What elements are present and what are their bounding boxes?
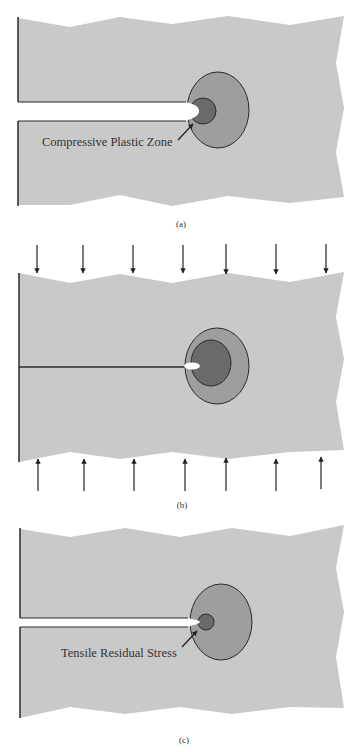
crack-c xyxy=(20,618,196,627)
fatigue-crack-diagram: Compressive Plastic Zone (a) xyxy=(0,0,362,752)
crack-tip-void-b xyxy=(184,363,200,370)
caption-a: (a) xyxy=(176,219,186,229)
compressive-load-arrows-bottom xyxy=(38,457,321,491)
caption-b: (b) xyxy=(177,500,188,510)
inner-plastic-zone-c xyxy=(198,614,214,630)
panel-a: Compressive Plastic Zone (a) xyxy=(18,16,344,229)
panel-c: Tensile Residual Stress (c) xyxy=(20,525,344,745)
crack-a xyxy=(18,102,193,121)
caption-c: (c) xyxy=(179,735,189,745)
annotation-tensile-residual-stress: Tensile Residual Stress xyxy=(61,646,177,660)
annotation-compressive-plastic-zone: Compressive Plastic Zone xyxy=(42,135,173,149)
inner-plastic-zone-b xyxy=(191,340,231,386)
compressive-load-arrows-top xyxy=(37,244,326,274)
panel-b: (b) xyxy=(19,244,344,510)
